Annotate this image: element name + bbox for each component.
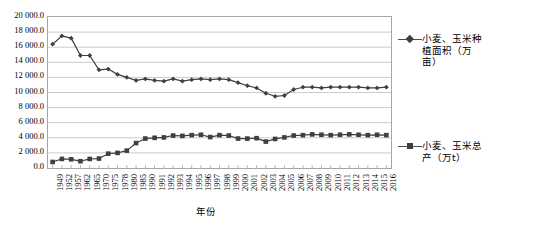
data-point-square — [106, 151, 111, 156]
y-tick-label: 2 000.0 — [19, 147, 45, 156]
series-layer — [50, 33, 389, 164]
data-point-diamond — [236, 80, 241, 85]
data-point-diamond — [152, 78, 157, 83]
data-point-diamond — [161, 79, 166, 84]
data-point-diamond — [263, 91, 268, 96]
data-point-diamond — [375, 86, 380, 91]
data-point-square — [236, 136, 241, 141]
data-point-diamond — [254, 86, 259, 91]
data-point-square — [199, 132, 204, 137]
data-point-square — [60, 157, 65, 162]
y-tick-label: 8 000.0 — [19, 102, 45, 111]
y-tick-label: 20 000.0 — [14, 11, 44, 20]
data-point-diamond — [356, 85, 361, 90]
data-point-square — [171, 133, 176, 138]
series-2 — [50, 132, 388, 164]
plot-area — [47, 16, 392, 169]
plot-svg — [48, 17, 391, 168]
data-point-diamond — [69, 36, 74, 41]
data-point-square — [208, 135, 213, 140]
data-point-diamond — [338, 85, 343, 90]
legend-item-planting-area[interactable]: 小麦、玉米种植面积（万亩） — [398, 33, 482, 68]
data-point-square — [375, 132, 380, 137]
data-point-diamond — [328, 85, 333, 90]
data-point-diamond — [134, 78, 139, 83]
data-point-square — [347, 132, 352, 137]
data-point-square — [366, 133, 371, 138]
data-point-square — [254, 136, 259, 141]
data-point-diamond — [245, 83, 250, 88]
y-tick-label: 14 000.0 — [14, 56, 44, 65]
x-axis-title: 年份 — [196, 206, 216, 217]
data-point-square — [245, 136, 250, 141]
data-point-diamond — [319, 86, 324, 91]
data-point-diamond — [365, 86, 370, 91]
data-point-square — [152, 136, 157, 141]
data-point-diamond — [301, 85, 306, 90]
data-point-square — [124, 148, 129, 153]
x-tick-label: 1990 — [148, 174, 157, 191]
data-point-diamond — [347, 85, 352, 90]
legend-item-label: 小麦、玉米种植面积（万亩） — [422, 33, 482, 68]
x-tick-label: 1997 — [213, 174, 222, 191]
y-tick-label: 12 000.0 — [14, 71, 44, 80]
data-point-square — [134, 141, 139, 146]
square-marker-icon — [398, 141, 422, 151]
x-tick-label: 2012 — [352, 174, 361, 191]
data-point-square — [87, 157, 92, 162]
data-point-diamond — [106, 67, 111, 72]
data-point-square — [162, 135, 167, 140]
data-point-square — [282, 135, 287, 140]
x-tick-label: 2001 — [250, 174, 259, 191]
data-point-square — [319, 132, 324, 137]
legend-item-label: 小麦、玉米总产（万t） — [422, 140, 482, 163]
data-point-square — [143, 136, 148, 141]
data-point-diamond — [226, 77, 231, 82]
x-axis: 1949195219571962196519701975197819801985… — [47, 170, 392, 210]
series-line — [53, 134, 387, 162]
data-point-square — [189, 133, 194, 138]
data-point-diamond — [78, 53, 83, 58]
y-tick-label: 6 000.0 — [19, 117, 45, 126]
data-point-square — [384, 133, 389, 138]
data-point-diamond — [208, 77, 213, 82]
data-point-square — [301, 133, 306, 138]
chart-legend: 小麦、玉米种植面积（万亩） 小麦、玉米总产（万t） — [398, 16, 540, 196]
data-point-square — [310, 132, 315, 137]
data-point-square — [338, 132, 343, 137]
y-axis: 20 000.018 000.016 000.014 000.012 000.0… — [0, 0, 46, 176]
y-tick-label: 0.0 — [33, 162, 44, 171]
data-point-diamond — [310, 85, 315, 90]
data-point-diamond — [124, 75, 129, 80]
chart-container: 20 000.018 000.016 000.014 000.012 000.0… — [0, 0, 540, 228]
data-point-square — [69, 157, 74, 162]
data-point-square — [78, 159, 83, 164]
legend-item-total-production[interactable]: 小麦、玉米总产（万t） — [398, 140, 482, 163]
data-point-diamond — [273, 94, 278, 99]
data-point-square — [291, 133, 296, 138]
series-line — [53, 36, 387, 96]
data-point-square — [217, 133, 222, 138]
series-1 — [50, 33, 389, 98]
y-tick-label: 18 000.0 — [14, 26, 44, 35]
data-point-square — [328, 133, 333, 138]
data-point-square — [264, 139, 269, 144]
data-point-diamond — [180, 79, 185, 84]
diamond-marker-icon — [398, 34, 422, 44]
data-point-square — [115, 151, 120, 156]
data-point-square — [97, 156, 102, 161]
gridlines — [48, 32, 391, 168]
data-point-square — [180, 134, 185, 139]
data-point-diamond — [189, 77, 194, 82]
y-tick-label: 10 000.0 — [14, 87, 44, 96]
data-point-diamond — [384, 85, 389, 90]
data-point-diamond — [115, 72, 120, 77]
data-point-square — [50, 160, 55, 165]
y-tick-label: 4 000.0 — [19, 132, 45, 141]
x-tick-label: 2016 — [389, 174, 398, 191]
data-point-square — [273, 137, 278, 142]
x-tick-label: 1975 — [111, 174, 120, 191]
data-point-square — [356, 132, 361, 137]
data-point-square — [226, 133, 231, 138]
y-tick-label: 16 000.0 — [14, 41, 44, 50]
